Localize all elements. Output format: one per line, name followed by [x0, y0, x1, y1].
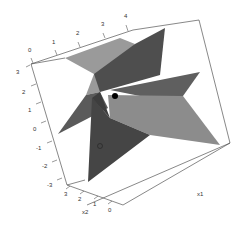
left-tick-0: 0 — [33, 126, 37, 132]
left-tick-3: 3 — [16, 69, 20, 75]
x2-axis: 3 2 1 0 x2 — [64, 186, 112, 215]
x2-tick-1: 1 — [93, 201, 97, 207]
x2-axis-title: x2 — [82, 209, 89, 215]
plot-3d: 0 1 2 3 4 3 2 1 0 -1 -2 -3 3 2 1 0 x2 x1 — [0, 0, 243, 231]
x1-axis-title: x1 — [197, 191, 204, 197]
top-tick-4: 4 — [124, 13, 128, 19]
top-tick-2: 2 — [76, 30, 80, 36]
x2-tick-3: 3 — [64, 191, 68, 197]
top-tick-3: 3 — [101, 21, 105, 27]
top-tick-0: 0 — [28, 47, 32, 53]
top-tick-1: 1 — [52, 39, 56, 45]
left-tick-neg1: -1 — [36, 145, 42, 151]
left-tick-neg2: -2 — [42, 163, 48, 169]
x2-tick-0: 0 — [108, 207, 112, 213]
left-tick-2: 2 — [22, 89, 26, 95]
x2-tick-2: 2 — [78, 196, 82, 202]
planes — [58, 28, 220, 182]
left-tick-neg3: -3 — [47, 182, 53, 188]
left-tick-1: 1 — [28, 107, 32, 113]
left-axis: 3 2 1 0 -1 -2 -3 — [16, 65, 62, 188]
intersection-point — [112, 93, 118, 99]
